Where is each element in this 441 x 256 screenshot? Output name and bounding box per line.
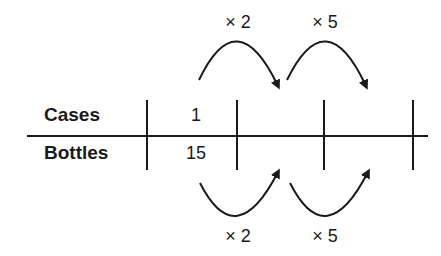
cases-value-1: 1 — [176, 105, 216, 125]
bottles-value-1: 15 — [176, 143, 216, 163]
row-label-bottles: Bottles — [44, 143, 108, 163]
bottom-operation-1: × 2 — [213, 226, 263, 246]
ratio-table-lines — [0, 0, 441, 256]
top-operation-1: × 2 — [213, 12, 263, 32]
top-operation-2: × 5 — [300, 12, 350, 32]
bottom-arrow-2 — [290, 172, 368, 216]
top-arrow-1 — [199, 41, 278, 86]
bottom-arrow-1 — [200, 172, 278, 216]
top-arrow-2 — [287, 41, 366, 86]
bottom-operation-2: × 5 — [300, 226, 350, 246]
row-label-cases: Cases — [44, 105, 100, 125]
